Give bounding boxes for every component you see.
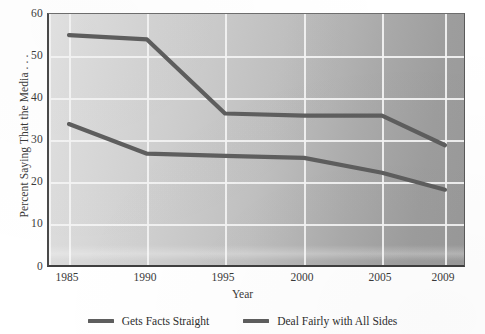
chart-legend: Gets Facts Straight Deal Fairly with All… [0, 311, 485, 331]
series-line-deal-fairly [69, 35, 445, 145]
series-line-gets-facts [69, 124, 445, 190]
line-chart: 60 50 40 30 20 10 0 Percent Saying That … [0, 0, 485, 334]
plot-area [47, 13, 465, 267]
x-tick-1995: 1995 [193, 271, 253, 283]
series-lines [49, 14, 464, 265]
y-axis-title: Percent Saying That the Media . . . [18, 26, 30, 246]
legend-label-gets-facts-straight: Gets Facts Straight [122, 315, 210, 327]
legend-item-deal-fairly-with-all-sides: Deal Fairly with All Sides [243, 315, 397, 327]
x-tick-2005: 2005 [350, 271, 410, 283]
line-swatch-icon [243, 319, 269, 324]
legend-item-gets-facts-straight: Gets Facts Straight [88, 315, 210, 327]
y-tick-60: 60 [3, 8, 43, 20]
line-swatch-icon [88, 319, 114, 324]
x-tick-1985: 1985 [37, 271, 97, 283]
x-axis-title: Year [0, 288, 485, 300]
x-tick-1990: 1990 [115, 271, 175, 283]
x-tick-2000: 2000 [272, 271, 332, 283]
x-tick-2009: 2009 [413, 271, 473, 283]
legend-label-deal-fairly-with-all-sides: Deal Fairly with All Sides [277, 315, 397, 327]
